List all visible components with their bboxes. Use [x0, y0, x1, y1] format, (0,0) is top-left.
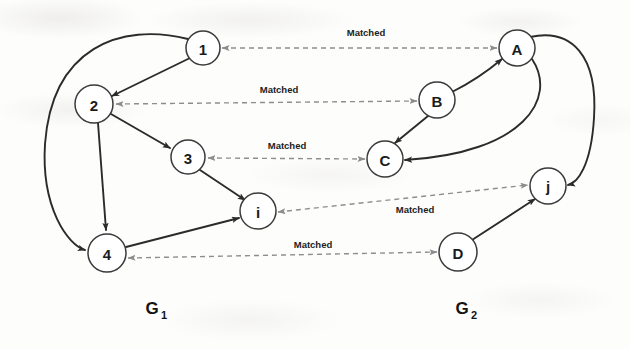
node-A[interactable]: A [499, 30, 535, 66]
graph-label-g1-base: G [145, 299, 158, 318]
node-label: C [380, 152, 391, 169]
matched-label: Matched [294, 239, 333, 250]
node-C[interactable]: C [367, 141, 403, 177]
node-i[interactable]: i [240, 193, 276, 229]
graph-label-g2-subscript: 2 [471, 309, 477, 321]
matched-link-4-D[interactable]: Matched [128, 239, 437, 258]
graph-matching-diagram: Matched Matched Matched Matched Matched [0, 0, 630, 349]
matched-link-2-B[interactable]: Matched [116, 84, 417, 104]
node-label: 2 [90, 97, 98, 114]
node-label: 1 [199, 41, 207, 58]
matched-line [208, 158, 365, 159]
matched-link-1-A[interactable]: Matched [222, 27, 497, 48]
node-label: 4 [103, 246, 112, 263]
node-D[interactable]: D [439, 233, 477, 271]
figure-canvas: Matched Matched Matched Matched Matched [0, 0, 630, 349]
node-B[interactable]: B [419, 82, 455, 118]
edge-4-to-i [126, 218, 239, 247]
graph-g1-nodes: 1 2 3 4 i [75, 31, 276, 272]
edge-1-to-4 [45, 34, 188, 250]
node-label: A [512, 41, 523, 58]
node-j[interactable]: j [530, 168, 566, 204]
edge-2-to-4 [98, 123, 106, 230]
matched-label: Matched [260, 84, 299, 95]
solid-edges-layer [45, 34, 595, 250]
node-label: B [432, 93, 443, 110]
matched-label: Matched [396, 204, 435, 215]
graph-label-g2-base: G [455, 299, 468, 318]
node-1[interactable]: 1 [186, 31, 220, 65]
edge-A-to-j [530, 35, 594, 185]
node-label: D [453, 245, 464, 262]
matched-line [116, 101, 417, 104]
matched-line [128, 252, 437, 258]
node-label: i [256, 204, 260, 221]
node-label: j [545, 178, 550, 195]
edge-B-to-A [452, 59, 502, 92]
node-4[interactable]: 4 [88, 234, 126, 272]
graph-captions: G 1 G 2 [145, 299, 477, 321]
matched-label: Matched [268, 140, 307, 151]
graph-label-g2: G 2 [455, 299, 477, 321]
node-label: 3 [184, 150, 192, 167]
graph-label-g1: G 1 [145, 299, 167, 321]
matched-link-i-j[interactable]: Matched [278, 185, 528, 215]
edge-D-to-j [472, 199, 535, 240]
edge-1-to-2 [112, 58, 190, 96]
edge-B-to-C [395, 116, 428, 143]
node-3[interactable]: 3 [171, 140, 205, 174]
graph-label-g1-subscript: 1 [161, 309, 167, 321]
matched-label: Matched [347, 27, 386, 38]
edge-3-to-i [200, 170, 245, 200]
node-2[interactable]: 2 [75, 85, 113, 123]
matched-link-3-C[interactable]: Matched [208, 140, 365, 159]
edge-2-to-3 [111, 114, 170, 148]
